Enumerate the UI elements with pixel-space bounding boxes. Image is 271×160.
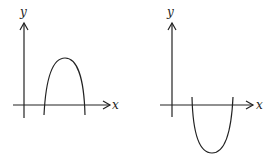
left-curve <box>44 58 85 115</box>
left-x-label: x <box>112 98 119 112</box>
diagram: y x y x <box>0 0 271 160</box>
left-graph <box>13 23 110 118</box>
right-y-label: y <box>166 5 174 19</box>
right-graph <box>160 23 253 153</box>
graphs-canvas: y x y x <box>0 0 271 160</box>
right-x-label: x <box>256 98 263 112</box>
left-y-label: y <box>19 5 27 19</box>
